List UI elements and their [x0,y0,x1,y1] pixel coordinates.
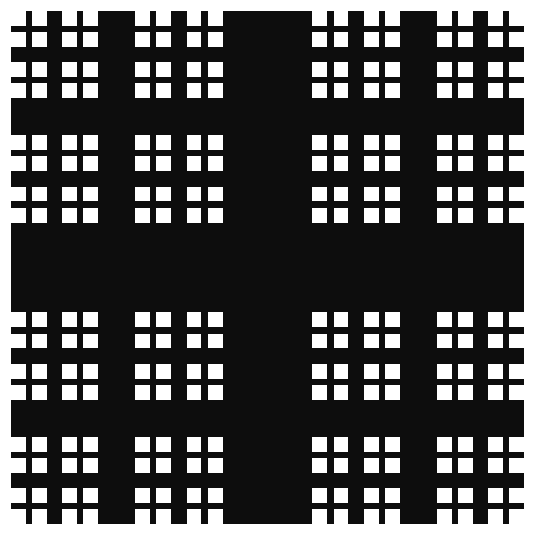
fractal-canvas: Recursive Cross Fractal [0,0,536,544]
recursive-cross-fractal-svg [0,0,536,544]
